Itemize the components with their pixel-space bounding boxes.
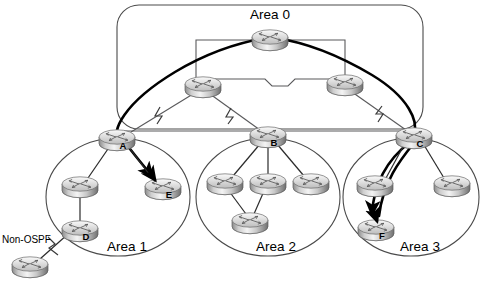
router-a1-r1[interactable] (62, 177, 98, 198)
router-a2-r1[interactable] (207, 174, 243, 195)
router-label-b: B (271, 137, 278, 148)
link-abrb-a2r1 (233, 144, 260, 176)
router-abr-b[interactable] (250, 127, 286, 148)
router-a1-e[interactable] (145, 179, 181, 200)
link-abra-a1e (128, 146, 152, 178)
router-abr-a[interactable] (99, 130, 135, 151)
area3-label: Area 3 (400, 239, 440, 254)
link-bbtop-bbright (280, 40, 345, 76)
area0-boundary (117, 5, 423, 129)
diagram-canvas: A B C D E F Area 0 Area 1 Area 2 Area 3 … (0, 0, 491, 281)
router-abr-c[interactable] (396, 128, 432, 149)
area0-label: Area 0 (250, 7, 290, 22)
non-ospf-label: Non-OSPF (2, 234, 51, 245)
router-a3-f[interactable] (358, 220, 394, 241)
lightning-bolt-icon-bbright-abrc (376, 106, 383, 122)
external-network-label: Non-OSPF (2, 234, 51, 245)
router-label-a: A (120, 140, 127, 151)
link-bbtop-bbleft (196, 40, 262, 78)
router-bb-top[interactable] (252, 30, 288, 51)
router-label-c: C (417, 138, 424, 149)
router-label-d: D (83, 231, 90, 242)
router-a2-r3[interactable] (293, 174, 329, 195)
router-a2-r2[interactable] (250, 174, 286, 195)
link-bbleft-bbright (215, 79, 337, 86)
router-label-e: E (166, 189, 172, 200)
link-abrc-a3r2 (424, 145, 444, 178)
area2-label: Area 2 (256, 239, 296, 254)
link-bbleft-abra (131, 94, 193, 132)
router-a3-r2[interactable] (434, 176, 470, 197)
router-a2-r4[interactable] (232, 213, 268, 234)
router-a1-d[interactable] (62, 221, 98, 242)
router-external-non-ospf[interactable] (12, 257, 48, 278)
router-bb-left[interactable] (185, 77, 221, 98)
backbone-links (131, 40, 406, 132)
area1-label: Area 1 (107, 239, 147, 254)
router-a3-r1[interactable] (357, 176, 393, 197)
area3-links (386, 145, 444, 178)
link-bbleft-abrb (210, 94, 260, 130)
link-abrb-a2r3 (277, 144, 304, 176)
lightning-bolt-icon-bbleft-abra (155, 107, 162, 124)
link-abra-a1r1 (88, 146, 110, 178)
ospf-area-diagram: A B C D E F Area 0 Area 1 Area 2 Area 3 … (0, 0, 491, 281)
router-bb-right[interactable] (327, 75, 363, 96)
router-label-f: F (379, 230, 385, 241)
